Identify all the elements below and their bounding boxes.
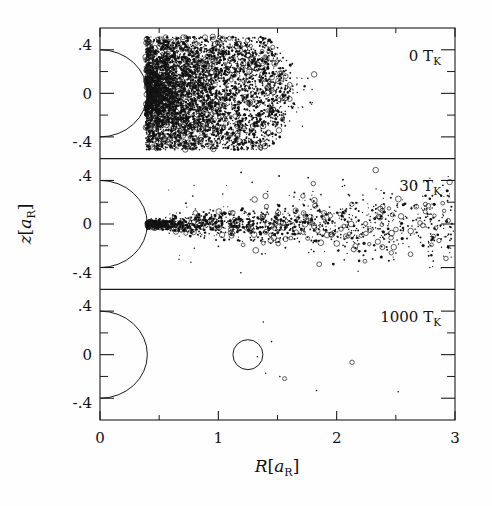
data-point bbox=[154, 108, 157, 111]
data-point bbox=[150, 225, 152, 227]
data-point bbox=[204, 135, 207, 138]
data-point bbox=[200, 80, 201, 81]
data-point bbox=[269, 104, 270, 105]
data-point bbox=[224, 126, 226, 128]
data-point bbox=[224, 110, 226, 112]
data-point bbox=[301, 230, 305, 234]
data-point bbox=[383, 238, 385, 240]
data-point bbox=[284, 95, 286, 97]
data-point bbox=[272, 140, 274, 142]
data-point bbox=[197, 96, 199, 98]
data-point bbox=[199, 232, 201, 234]
data-point bbox=[410, 234, 412, 236]
data-point bbox=[155, 82, 157, 84]
data-point bbox=[245, 120, 246, 121]
data-point bbox=[440, 226, 441, 227]
data-point bbox=[229, 78, 233, 82]
data-point bbox=[166, 97, 168, 99]
data-point bbox=[218, 91, 220, 93]
data-point bbox=[388, 215, 389, 216]
data-point bbox=[428, 242, 430, 244]
data-point bbox=[207, 134, 208, 135]
data-point bbox=[169, 124, 170, 125]
data-point bbox=[279, 67, 281, 69]
data-point bbox=[259, 222, 261, 224]
data-point bbox=[202, 223, 204, 225]
data-point bbox=[155, 66, 158, 69]
data-point bbox=[185, 66, 187, 68]
data-point bbox=[170, 80, 172, 82]
data-point bbox=[422, 195, 424, 197]
data-point bbox=[209, 221, 211, 223]
data-point bbox=[311, 103, 312, 104]
data-point bbox=[274, 53, 276, 55]
data-point bbox=[260, 43, 261, 44]
data-point bbox=[180, 94, 182, 96]
data-point bbox=[175, 221, 177, 223]
data-point bbox=[185, 217, 186, 218]
data-point bbox=[441, 268, 442, 269]
data-point bbox=[276, 95, 278, 97]
data-point bbox=[443, 196, 444, 197]
data-point bbox=[177, 144, 180, 147]
data-point bbox=[293, 196, 295, 198]
data-point bbox=[260, 110, 262, 112]
data-point bbox=[283, 216, 285, 218]
data-point bbox=[182, 218, 184, 220]
panel-label-0TK-text: 0 T bbox=[409, 47, 433, 65]
data-point bbox=[199, 73, 202, 76]
data-point bbox=[317, 210, 319, 212]
data-point bbox=[276, 76, 278, 78]
data-point bbox=[203, 113, 206, 116]
data-point bbox=[151, 70, 152, 71]
data-point bbox=[152, 98, 154, 100]
data-point bbox=[234, 107, 235, 108]
data-point bbox=[207, 99, 209, 101]
data-point bbox=[164, 143, 166, 145]
data-point bbox=[190, 98, 192, 100]
y-tick-label-p0-mid: 0 bbox=[82, 85, 92, 103]
data-point bbox=[240, 114, 242, 116]
data-point bbox=[416, 232, 418, 234]
data-point bbox=[183, 145, 184, 146]
data-point bbox=[156, 70, 157, 71]
data-point bbox=[158, 37, 159, 38]
data-point bbox=[212, 144, 214, 146]
data-point bbox=[188, 114, 190, 116]
data-point bbox=[245, 85, 247, 87]
data-point bbox=[190, 77, 191, 78]
data-point bbox=[239, 223, 241, 225]
data-point bbox=[231, 229, 233, 231]
data-point bbox=[194, 92, 195, 93]
x-tick-label-0: 0 bbox=[95, 429, 105, 447]
data-point bbox=[241, 120, 244, 123]
data-point bbox=[433, 214, 436, 217]
data-point bbox=[220, 108, 222, 110]
data-point bbox=[172, 84, 175, 87]
data-point bbox=[179, 47, 181, 49]
data-point bbox=[148, 65, 149, 66]
data-point bbox=[225, 217, 227, 219]
data-point bbox=[230, 92, 232, 94]
data-point bbox=[207, 226, 208, 227]
data-point bbox=[202, 65, 205, 68]
data-point bbox=[211, 83, 213, 85]
data-point bbox=[165, 116, 167, 118]
data-point bbox=[146, 102, 148, 104]
data-point bbox=[250, 125, 251, 126]
data-point bbox=[170, 229, 172, 231]
data-point bbox=[273, 100, 275, 102]
data-point bbox=[179, 119, 180, 120]
data-point bbox=[240, 102, 242, 104]
data-point bbox=[324, 229, 327, 232]
data-point bbox=[183, 117, 185, 119]
data-point bbox=[254, 212, 256, 214]
data-point bbox=[424, 208, 426, 210]
data-point bbox=[277, 116, 279, 118]
data-point bbox=[255, 54, 257, 56]
data-point bbox=[449, 240, 451, 242]
data-point bbox=[172, 133, 174, 135]
data-point bbox=[173, 79, 175, 81]
data-point bbox=[213, 229, 214, 230]
data-point bbox=[148, 108, 149, 109]
